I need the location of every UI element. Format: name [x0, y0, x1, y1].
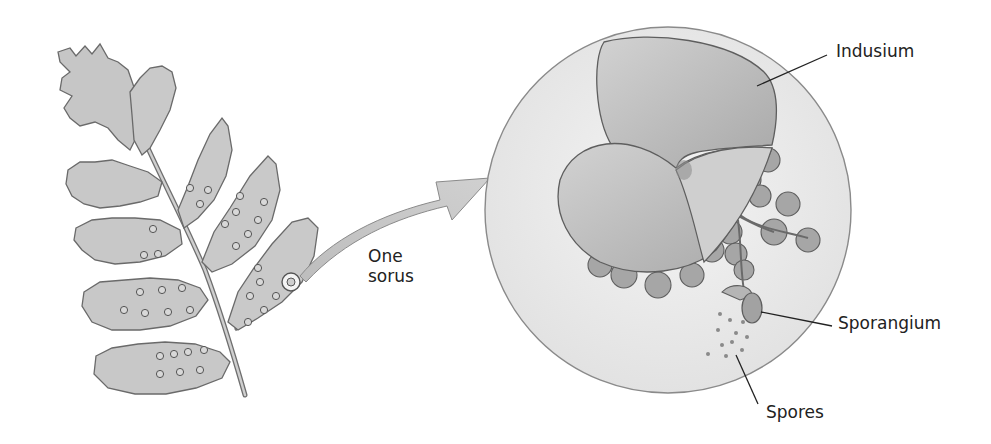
pinna-left-2	[74, 218, 182, 264]
label-one-sorus-line1: One	[368, 247, 428, 267]
pinna-left-1	[66, 160, 162, 208]
pinna-left-4	[94, 342, 230, 394]
fern-sorus-diagram: One sorus Indusium Sporangium Spores	[0, 0, 991, 444]
pinna-right-1	[178, 118, 232, 228]
magnified-sorus	[485, 27, 851, 393]
label-one-sorus-line2: sorus	[368, 267, 428, 287]
label-spores: Spores	[766, 403, 824, 423]
label-indusium: Indusium	[836, 42, 914, 62]
label-one-sorus: One sorus	[368, 247, 428, 286]
pinna-upper-right	[130, 66, 176, 155]
label-sporangium: Sporangium	[838, 314, 941, 334]
diagram-artwork	[0, 0, 991, 444]
highlighted-sorus	[282, 273, 300, 291]
pinna-left-3	[82, 278, 208, 330]
fern-frond	[58, 44, 330, 395]
pinna-apex	[58, 44, 140, 150]
